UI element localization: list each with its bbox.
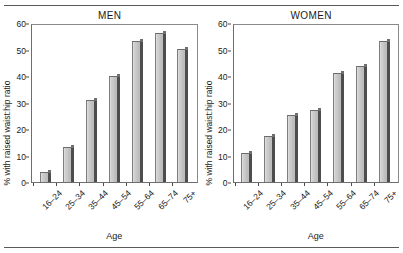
bar bbox=[356, 66, 367, 182]
x-axis-label-men: Age bbox=[31, 231, 198, 241]
y-tick-mark-women-60 bbox=[228, 24, 231, 25]
figure-bottom-rule bbox=[4, 247, 399, 248]
axis-area-women: 0102030405060 16–2425–3435–4445–5455–646… bbox=[216, 24, 403, 241]
x-tick-label: 75+ bbox=[181, 188, 198, 205]
bar-slot bbox=[373, 25, 396, 182]
x-label-slot: 55–64 bbox=[126, 186, 149, 230]
y-tick-women-40: 40 bbox=[218, 72, 227, 82]
y-tick-women-20: 20 bbox=[218, 125, 227, 135]
bar-group-women bbox=[234, 25, 399, 182]
bar bbox=[333, 73, 344, 182]
chart-panel-women: WOMEN % with raised waist:hip ratio 0102… bbox=[202, 8, 403, 241]
bar-slot bbox=[57, 25, 80, 182]
x-label-slot: 75+ bbox=[172, 186, 195, 230]
y-tick-mark-men-30 bbox=[26, 103, 29, 104]
y-tick-mark-women-10 bbox=[228, 156, 231, 157]
y-tick-mark-men-50 bbox=[26, 50, 29, 51]
y-tick-mark-men-20 bbox=[26, 130, 29, 131]
y-tick-labels-women: 0102030405060 bbox=[216, 24, 232, 183]
y-tick-women-30: 30 bbox=[218, 99, 227, 109]
x-label-slot: 16–24 bbox=[33, 186, 56, 230]
x-label-slot: 45–54 bbox=[103, 186, 126, 230]
y-tick-mark-women-20 bbox=[228, 130, 231, 131]
y-tick-mark-women-30 bbox=[228, 103, 231, 104]
y-tick-women-60: 60 bbox=[218, 19, 227, 29]
bar bbox=[109, 76, 120, 182]
bar bbox=[86, 100, 97, 182]
chart-title-men: MEN bbox=[0, 8, 202, 24]
bar-slot bbox=[236, 25, 259, 182]
bar bbox=[287, 115, 298, 182]
x-label-slot: 45–54 bbox=[304, 186, 327, 230]
figure-top-rule bbox=[4, 5, 399, 6]
x-tick-labels-women: 16–2425–3435–4445–5455–6465–7475+ bbox=[233, 186, 400, 230]
bar-slot bbox=[126, 25, 149, 182]
y-tick-women-50: 50 bbox=[218, 46, 227, 56]
panel-body-women: % with raised waist:hip ratio 0102030405… bbox=[202, 24, 403, 241]
bar bbox=[132, 41, 143, 182]
plot-area-women bbox=[233, 24, 400, 183]
bar-slot bbox=[281, 25, 304, 182]
figure: MEN % with raised waist:hip ratio 010203… bbox=[0, 0, 403, 253]
x-label-slot: 16–24 bbox=[235, 186, 258, 230]
chart-panel-men: MEN % with raised waist:hip ratio 010203… bbox=[0, 8, 202, 241]
bar-slot bbox=[304, 25, 327, 182]
y-tick-men-50: 50 bbox=[17, 46, 26, 56]
y-tick-men-10: 10 bbox=[17, 152, 26, 162]
chart-panels: MEN % with raised waist:hip ratio 010203… bbox=[0, 8, 403, 241]
y-tick-mark-women-50 bbox=[228, 50, 231, 51]
bar-slot bbox=[172, 25, 195, 182]
y-tick-mark-men-40 bbox=[26, 77, 29, 78]
bar-slot bbox=[327, 25, 350, 182]
panel-body-men: % with raised waist:hip ratio 0102030405… bbox=[0, 24, 202, 241]
bar-slot bbox=[34, 25, 57, 182]
y-tick-women-10: 10 bbox=[218, 152, 227, 162]
plot-area-men bbox=[31, 24, 198, 183]
x-label-slot: 35–44 bbox=[281, 186, 304, 230]
y-tick-mark-men-10 bbox=[26, 156, 29, 157]
y-tick-men-20: 20 bbox=[17, 125, 26, 135]
y-axis-label-men: % with raised waist:hip ratio bbox=[2, 80, 12, 185]
bar-slot bbox=[258, 25, 281, 182]
bar bbox=[155, 33, 166, 182]
bar-slot bbox=[149, 25, 172, 182]
chart-title-women: WOMEN bbox=[202, 8, 403, 24]
bar bbox=[40, 172, 51, 182]
x-label-slot: 35–44 bbox=[79, 186, 102, 230]
x-tick-label: 75+ bbox=[382, 188, 399, 205]
x-axis-zone-men: 16–2425–3435–4445–5455–6465–7475+ Age bbox=[14, 183, 202, 241]
bar-group-men bbox=[32, 25, 197, 182]
bar-slot bbox=[80, 25, 103, 182]
bar bbox=[177, 49, 188, 182]
x-label-slot: 65–74 bbox=[351, 186, 374, 230]
y-tick-men-30: 30 bbox=[17, 99, 26, 109]
x-axis-label-women: Age bbox=[233, 231, 400, 241]
axis-area-men: 0102030405060 16–2425–3435–4445–5455–646… bbox=[14, 24, 202, 241]
x-axis-zone-women: 16–2425–3435–4445–5455–6465–7475+ Age bbox=[216, 183, 403, 241]
bar bbox=[264, 136, 275, 182]
bar bbox=[379, 41, 390, 182]
bar-slot bbox=[350, 25, 373, 182]
x-label-slot: 55–64 bbox=[327, 186, 350, 230]
bar bbox=[63, 147, 74, 182]
x-label-slot: 25–34 bbox=[258, 186, 281, 230]
x-label-slot: 65–74 bbox=[149, 186, 172, 230]
y-tick-mark-men-60 bbox=[26, 24, 29, 25]
x-label-slot: 75+ bbox=[374, 186, 397, 230]
bar bbox=[310, 110, 321, 182]
y-tick-mark-women-40 bbox=[228, 77, 231, 78]
y-tick-labels-men: 0102030405060 bbox=[14, 24, 30, 183]
y-tick-men-40: 40 bbox=[17, 72, 26, 82]
y-axis-label-wrap-women: % with raised waist:hip ratio bbox=[202, 24, 216, 241]
y-axis-label-women: % with raised waist:hip ratio bbox=[204, 80, 214, 185]
x-label-slot: 25–34 bbox=[56, 186, 79, 230]
bar bbox=[241, 153, 252, 182]
y-tick-men-60: 60 bbox=[17, 19, 26, 29]
y-axis-label-wrap-men: % with raised waist:hip ratio bbox=[0, 24, 14, 241]
bar-slot bbox=[103, 25, 126, 182]
x-tick-labels-men: 16–2425–3435–4445–5455–6465–7475+ bbox=[31, 186, 198, 230]
